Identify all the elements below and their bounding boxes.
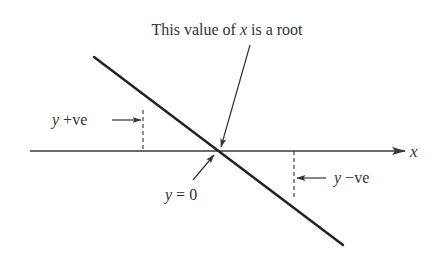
x-axis-label: x [409,142,418,161]
zero-label-text: = 0 [172,186,197,203]
zero-arrow-icon [193,155,214,180]
zero-label: y = 0 [163,186,197,204]
negative-label: y −ve [332,169,369,187]
positive-label-text: +ve [59,111,87,128]
title-text-post: is a root [247,21,303,38]
negative-label-text: −ve [341,169,369,186]
root-pointer-arrow-icon [221,45,250,147]
root-diagram: x This value of x is a root y +ve y = 0 … [0,0,441,260]
title-annotation: This value of x is a root [151,21,303,38]
title-text-pre: This value of [151,21,239,38]
positive-label: y +ve [50,111,87,129]
title-variable: x [239,21,247,38]
